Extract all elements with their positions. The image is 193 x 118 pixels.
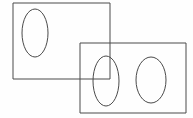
ellipse-left — [22, 9, 48, 57]
rectangle-right — [80, 43, 186, 113]
ellipse-middle — [93, 56, 119, 106]
figure-canvas — [0, 0, 193, 118]
ellipse-right — [136, 57, 166, 103]
diagram-svg — [0, 0, 193, 118]
